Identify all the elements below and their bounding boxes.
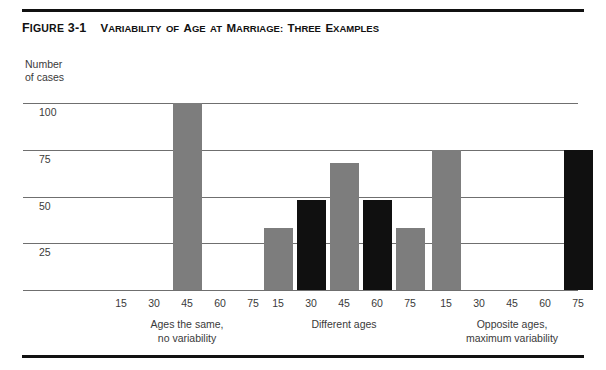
group-caption: Ages the same,no variability bbox=[97, 318, 277, 345]
y-tick-label-75: 75 bbox=[39, 153, 51, 165]
figure-number: 3-1 bbox=[68, 21, 87, 35]
gridline-0 bbox=[23, 290, 578, 291]
x-tick-label: 45 bbox=[500, 297, 524, 309]
bar bbox=[330, 163, 359, 290]
group-caption-line1: Ages the same, bbox=[97, 318, 277, 332]
x-tick-label: 75 bbox=[566, 297, 590, 309]
gridline-50 bbox=[23, 197, 578, 198]
x-tick-label: 30 bbox=[467, 297, 491, 309]
plot-area: 1007550251530456075Ages the same,no vari… bbox=[23, 90, 578, 290]
bottom-rule bbox=[22, 355, 584, 358]
x-tick-label: 15 bbox=[266, 297, 290, 309]
y-axis-caption: Number of cases bbox=[25, 58, 64, 84]
gridline-100 bbox=[23, 103, 578, 104]
figure-title: VARIABILITY OF AGE AT MARRIAGE: THREE EX… bbox=[100, 18, 379, 36]
figure-title-row: FIGURE 3-1 VARIABILITY OF AGE AT MARRIAG… bbox=[22, 18, 379, 36]
group-caption-line1: Opposite ages, bbox=[422, 318, 602, 332]
group-caption-line1: Different ages bbox=[254, 318, 434, 332]
y-tick-label-50: 50 bbox=[39, 200, 51, 212]
bar bbox=[564, 150, 593, 290]
y-axis-caption-line2: of cases bbox=[25, 71, 64, 84]
x-tick-label: 60 bbox=[365, 297, 389, 309]
bar bbox=[432, 150, 461, 290]
bar bbox=[297, 200, 326, 290]
x-tick-label: 15 bbox=[109, 297, 133, 309]
group-caption-line2: no variability bbox=[97, 332, 277, 346]
y-tick-label-100: 100 bbox=[39, 106, 57, 118]
bar bbox=[173, 103, 202, 290]
top-rule bbox=[22, 9, 584, 12]
x-tick-label: 30 bbox=[299, 297, 323, 309]
bar bbox=[264, 228, 293, 290]
x-tick-label: 45 bbox=[332, 297, 356, 309]
figure-container: FIGURE 3-1 VARIABILITY OF AGE AT MARRIAG… bbox=[0, 0, 606, 370]
group-caption: Opposite ages,maximum variability bbox=[422, 318, 602, 345]
group-caption-line2: maximum variability bbox=[422, 332, 602, 346]
x-tick-label: 60 bbox=[533, 297, 557, 309]
figure-label: FIGURE 3-1 bbox=[22, 21, 86, 35]
x-tick-label: 60 bbox=[208, 297, 232, 309]
x-tick-label: 30 bbox=[142, 297, 166, 309]
x-tick-label: 15 bbox=[434, 297, 458, 309]
gridline-75 bbox=[23, 150, 578, 151]
bar bbox=[396, 228, 425, 290]
x-tick-label: 45 bbox=[175, 297, 199, 309]
group-caption: Different ages bbox=[254, 318, 434, 332]
y-tick-label-25: 25 bbox=[39, 246, 51, 258]
bar bbox=[363, 200, 392, 290]
x-tick-label: 75 bbox=[241, 297, 265, 309]
y-axis-caption-line1: Number bbox=[25, 58, 64, 71]
x-tick-label: 75 bbox=[398, 297, 422, 309]
